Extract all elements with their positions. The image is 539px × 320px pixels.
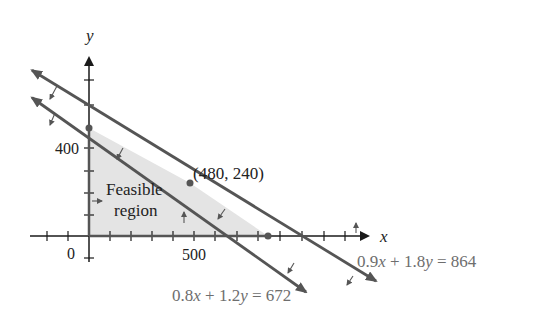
equation-864-label: 0.9x + 1.8y = 864	[357, 252, 477, 271]
linear-programming-chart: y x 0 500 400 (480, 240) Feasible region…	[0, 0, 539, 320]
y-axis-label: y	[84, 26, 94, 45]
feasible-region-label-1: Feasible	[106, 180, 163, 199]
feasible-region-label-2: region	[114, 201, 158, 220]
vertex-840-0	[265, 233, 272, 240]
y-tick-400-label: 400	[55, 140, 79, 157]
equation-672-label: 0.8x + 1.2y = 672	[172, 286, 291, 305]
vertex-0-560	[86, 125, 93, 132]
origin-label: 0	[67, 245, 75, 262]
vertex-point-label: (480, 240)	[193, 164, 264, 183]
x-tick-500-label: 500	[182, 246, 206, 263]
constraint-line-672	[38, 102, 306, 292]
x-axis-label: x	[379, 227, 388, 246]
